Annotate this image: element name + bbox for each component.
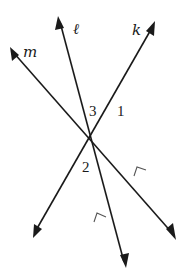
line-k-top-arrow-icon: [146, 21, 155, 36]
line-k: [33, 21, 155, 238]
line-l-parallel-tick-icon: [94, 213, 106, 222]
line-m: [10, 47, 176, 240]
angle-label-1: 1: [117, 103, 125, 119]
line-m-parallel-tick-icon: [134, 167, 146, 176]
angle-label-2: 2: [82, 159, 90, 175]
line-k-segment: [35, 26, 153, 232]
line-m-segment: [13, 52, 173, 234]
line-l-bottom-arrow-icon: [120, 253, 129, 268]
line-label-k: k: [132, 21, 141, 39]
line-m-bottom-arrow-icon: [166, 223, 176, 240]
line-label-l: ℓ: [73, 20, 79, 38]
angle-label-3: 3: [89, 103, 97, 119]
parallel-lines-diagram: ℓ k m 3 1 2: [0, 0, 185, 276]
line-m-top-arrow-icon: [10, 47, 19, 61]
line-label-m: m: [23, 43, 37, 61]
line-l-top-arrow-icon: [55, 16, 64, 30]
